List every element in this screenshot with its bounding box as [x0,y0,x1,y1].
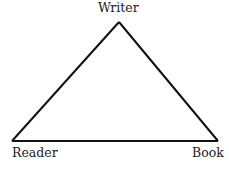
node-label-writer: Writer [98,2,139,15]
edge-writer-book [119,22,218,141]
edge-writer-reader [12,22,119,141]
node-label-book: Book [192,147,224,160]
node-label-reader: Reader [12,147,58,160]
triangle-diagram [0,0,229,169]
